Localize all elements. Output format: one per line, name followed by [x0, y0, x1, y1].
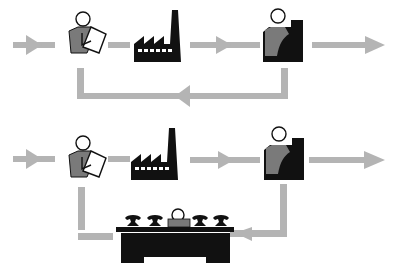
outgoing-arrow-top [312, 36, 385, 54]
connector-clerk-factory-bottom [108, 156, 130, 162]
top-flow-row [13, 9, 385, 107]
factory-icon [134, 10, 181, 62]
process-diagram [0, 0, 397, 270]
arrow-factory-receiver-top [190, 36, 260, 54]
person-with-document-icon [69, 136, 106, 177]
bottom-flow-row [13, 127, 385, 263]
incoming-arrow-bottom [13, 149, 55, 169]
telephone-switchboard-desk-icon [116, 209, 234, 263]
person-with-document-icon [69, 12, 106, 53]
person-at-counter-icon [263, 9, 303, 62]
feedback-loop-top [77, 68, 288, 107]
connector-clerk-factory-top [108, 42, 130, 48]
outgoing-arrow-bottom [309, 151, 385, 169]
arrow-factory-receiver-bottom [190, 151, 260, 169]
person-at-counter-icon [264, 127, 304, 180]
factory-icon [131, 128, 178, 180]
incoming-arrow-top [13, 35, 55, 55]
